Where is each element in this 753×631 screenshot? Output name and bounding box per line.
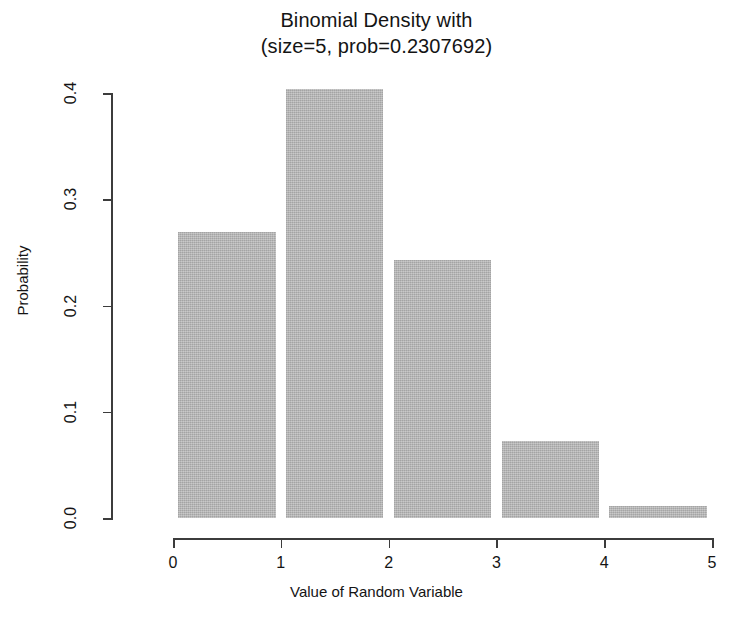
x-tick-label-4: 4 (574, 554, 634, 572)
y-tick-label-0.1: 0.1 (45, 386, 97, 438)
bar-4 (609, 506, 707, 518)
bar-1 (286, 89, 384, 518)
y-tick-label-0.4: 0.4 (45, 67, 97, 119)
y-axis-line (111, 93, 113, 520)
x-axis-tick-3 (496, 538, 498, 548)
y-axis-tick-0.3 (103, 199, 111, 201)
y-axis-tick-0.2 (103, 306, 111, 308)
x-tick-label-0: 0 (143, 554, 203, 572)
y-tick-label-0.3: 0.3 (45, 173, 97, 225)
bar-0 (178, 232, 276, 518)
y-tick-label-0.0: 0.0 (45, 492, 97, 544)
y-axis-tick-0.1 (103, 412, 111, 414)
x-tick-label-1: 1 (251, 554, 311, 572)
x-tick-label-3: 3 (466, 554, 526, 572)
x-axis-line (173, 538, 714, 540)
x-tick-label-5: 5 (682, 554, 742, 572)
x-axis-tick-5 (712, 538, 714, 548)
bar-2 (394, 260, 492, 518)
x-axis-label: Value of Random Variable (0, 583, 753, 600)
y-tick-label-0.2: 0.2 (45, 280, 97, 332)
y-axis-tick-0.0 (103, 518, 111, 520)
x-axis-tick-0 (173, 538, 175, 548)
x-tick-label-2: 2 (359, 554, 419, 572)
plot-panel: 0.00.10.20.30.4012345 (0, 0, 753, 631)
bar-3 (502, 441, 600, 518)
x-axis-tick-2 (389, 538, 391, 548)
chart-figure: Binomial Density with (size=5, prob=0.23… (0, 0, 753, 631)
y-axis-tick-0.4 (103, 93, 111, 95)
x-axis-tick-1 (281, 538, 283, 548)
x-axis-tick-4 (604, 538, 606, 548)
y-axis-label: Probability (14, 221, 31, 341)
